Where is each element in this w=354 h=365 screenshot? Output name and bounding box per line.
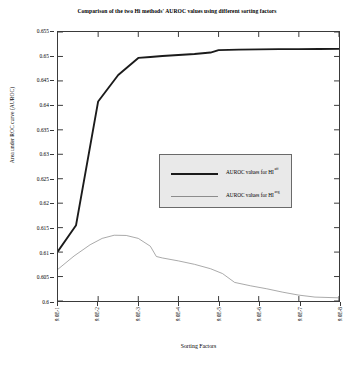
x-tick-label: 9.0E-5 [216, 307, 222, 321]
x-tick-label: 9.0E-3 [135, 307, 141, 321]
y-tick-mark [50, 228, 54, 229]
x-tick-mark [219, 302, 220, 306]
legend-label: AUROC values for HIavg [226, 191, 279, 198]
x-tick-mark [97, 302, 98, 306]
y-tick-mark [50, 302, 54, 303]
x-axis-title: Sorting Factors [57, 343, 340, 349]
legend-line-swatch [171, 196, 218, 197]
y-tick-label: 0.615 [37, 225, 49, 231]
legend-label-superscript: avg [274, 190, 279, 194]
legend-label-superscript: aff [274, 167, 278, 171]
y-tick-label: 0.605 [37, 274, 49, 280]
x-tick-label: 9.0E-7 [297, 307, 303, 321]
y-tick-label: 0.625 [37, 176, 49, 182]
y-tick-label: 0.64 [40, 102, 49, 108]
x-tick-mark [178, 302, 179, 306]
chart-title: Comparison of the two Hi methods' AUROC … [0, 7, 354, 15]
x-tick-label: 9.0E-1 [54, 307, 60, 321]
y-tick-label: 0.655 [37, 28, 49, 34]
y-tick-label: 0.635 [37, 127, 49, 133]
x-tick-mark [259, 302, 260, 306]
y-tick-label: 0.645 [37, 77, 49, 83]
y-tick-label: 0.62 [40, 200, 49, 206]
y-tick-label: 0.6 [42, 299, 49, 305]
y-tick-mark [50, 203, 54, 204]
legend-label-text: AUROC values for HI [226, 192, 274, 198]
series-line-1 [58, 49, 339, 251]
y-tick-label: 0.65 [40, 53, 49, 59]
chart-figure: Comparison of the two Hi methods' AUROC … [0, 0, 354, 365]
y-axis-tick-labels: 0.60.6050.610.6150.620.6250.630.6350.640… [0, 31, 54, 302]
chart-legend: AUROC values for HIaffAUROC values for H… [159, 154, 292, 208]
y-tick-mark [50, 56, 54, 57]
y-tick-mark [50, 277, 54, 278]
y-tick-mark [50, 105, 54, 106]
legend-line-swatch [171, 173, 218, 175]
legend-label-text: AUROC values for HI [226, 169, 274, 175]
x-tick-label: 9.0E-6 [256, 307, 262, 321]
y-tick-label: 0.63 [40, 151, 49, 157]
x-tick-mark [340, 302, 341, 306]
x-tick-mark [138, 302, 139, 306]
y-tick-mark [50, 31, 54, 32]
x-tick-label: 9.0E-4 [175, 307, 181, 321]
x-tick-label: 9.0E-8 [337, 307, 343, 321]
legend-item: AUROC values for HIaff [160, 166, 293, 182]
y-tick-mark [50, 154, 54, 155]
y-tick-label: 0.61 [40, 250, 49, 256]
y-tick-mark [50, 253, 54, 254]
x-tick-mark [300, 302, 301, 306]
x-axis-tick-labels: 9.0E-19.0E-29.0E-39.0E-49.0E-59.0E-69.0E… [57, 302, 340, 338]
y-tick-mark [50, 179, 54, 180]
x-tick-mark [57, 302, 58, 306]
y-tick-mark [50, 130, 54, 131]
legend-label: AUROC values for HIaff [226, 168, 278, 175]
series-line-2 [58, 235, 339, 298]
x-tick-label: 9.0E-2 [94, 307, 100, 321]
legend-item: AUROC values for HIavg [160, 189, 293, 205]
y-tick-mark [50, 80, 54, 81]
